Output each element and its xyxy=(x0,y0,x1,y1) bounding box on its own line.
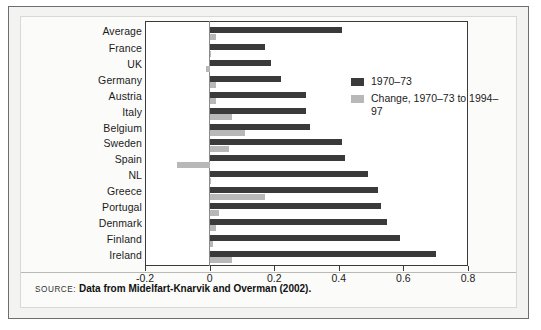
legend-label: Change, 1970–73 to 1994–97 xyxy=(371,92,498,117)
category-label: Finland xyxy=(27,234,142,245)
bar-group xyxy=(145,219,468,234)
category-label: Greece xyxy=(27,186,142,197)
bar-group xyxy=(145,139,468,154)
legend-swatch xyxy=(351,95,364,103)
bar xyxy=(210,60,271,66)
x-tick-mark xyxy=(145,266,146,271)
plot-area xyxy=(145,21,468,266)
bar xyxy=(210,92,307,98)
bar-group xyxy=(145,171,468,186)
category-label: Sweden xyxy=(27,138,142,149)
bar xyxy=(210,241,213,247)
bar-group xyxy=(145,251,468,266)
bar xyxy=(210,124,310,130)
legend-item: Change, 1970–73 to 1994–97 xyxy=(351,92,501,118)
figure-container: AverageFranceUKGermanyAustriaItalyBelgiu… xyxy=(8,6,529,319)
bar xyxy=(210,171,368,177)
category-label: Germany xyxy=(27,75,142,86)
category-label: Austria xyxy=(27,91,142,102)
x-tick-label: 0.6 xyxy=(396,272,411,284)
category-label: Denmark xyxy=(27,218,142,229)
x-tick-mark xyxy=(274,266,275,271)
x-tick-mark xyxy=(210,266,211,271)
bar xyxy=(210,139,342,145)
bar xyxy=(210,44,265,50)
bar xyxy=(210,34,216,40)
category-label: Ireland xyxy=(27,250,142,261)
category-label: France xyxy=(27,43,142,54)
bar xyxy=(210,27,342,33)
bar xyxy=(210,257,233,263)
chart-legend: 1970–73Change, 1970–73 to 1994–97 xyxy=(351,75,501,122)
bar xyxy=(210,251,436,257)
bar-group xyxy=(145,44,468,59)
bar xyxy=(210,219,388,225)
source-kicker: SOURCE: xyxy=(35,285,76,294)
bar-group xyxy=(145,235,468,250)
bar xyxy=(210,51,211,57)
legend-swatch xyxy=(351,78,364,86)
figure-inner-panel: AverageFranceUKGermanyAustriaItalyBelgiu… xyxy=(20,16,517,308)
source-text: Data from Midelfart-Knarvik and Overman … xyxy=(79,283,311,294)
bar xyxy=(210,76,281,82)
bar xyxy=(210,235,401,241)
bar xyxy=(210,114,233,120)
bar xyxy=(210,178,212,184)
bar xyxy=(210,146,229,152)
bar xyxy=(210,203,381,209)
x-tick-mark xyxy=(403,266,404,271)
bar-group xyxy=(145,187,468,202)
source-note: SOURCE: Data from Midelfart-Knarvik and … xyxy=(35,283,311,294)
x-tick-label: 0.4 xyxy=(331,272,346,284)
bar xyxy=(210,187,378,193)
source-divider xyxy=(21,272,516,273)
bar xyxy=(210,155,346,161)
category-label: NL xyxy=(27,170,142,181)
bar xyxy=(177,162,209,168)
bar-group xyxy=(145,60,468,75)
legend-item: 1970–73 xyxy=(351,75,501,88)
category-label: Italy xyxy=(27,107,142,118)
category-label: Spain xyxy=(27,154,142,165)
category-label: Portugal xyxy=(27,202,142,213)
bar xyxy=(210,225,216,231)
bar xyxy=(210,98,216,104)
x-tick-mark xyxy=(468,266,469,271)
bar-group xyxy=(145,27,468,42)
category-axis-labels: AverageFranceUKGermanyAustriaItalyBelgiu… xyxy=(24,21,142,266)
category-label: Belgium xyxy=(27,123,142,134)
x-tick-mark xyxy=(339,266,340,271)
category-label: UK xyxy=(27,59,142,70)
bar-group xyxy=(145,124,468,139)
bar xyxy=(210,210,220,216)
x-tick-label: 0.8 xyxy=(461,272,476,284)
bar xyxy=(210,108,307,114)
bar-group xyxy=(145,155,468,170)
bar xyxy=(210,130,246,136)
bar xyxy=(210,194,265,200)
category-label: Average xyxy=(27,26,142,37)
bar xyxy=(206,66,209,72)
legend-label: 1970–73 xyxy=(371,75,412,87)
bar-group xyxy=(145,203,468,218)
bar xyxy=(210,82,216,88)
